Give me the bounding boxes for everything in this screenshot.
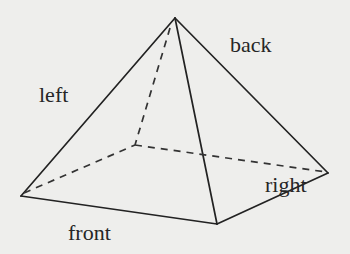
hidden-edge-back-base (135, 145, 326, 172)
edge-front-base (21, 196, 217, 224)
pyramid-drawing: left back right front (0, 0, 350, 254)
hidden-edge-apex-back-left (135, 28, 170, 145)
label-front: front (68, 220, 111, 245)
label-left: left (39, 82, 68, 107)
label-right: right (265, 172, 307, 197)
hidden-edge-left-base (24, 145, 135, 193)
edge-apex-front-left (21, 18, 175, 196)
edge-apex-front-right (175, 18, 217, 224)
label-back: back (230, 32, 272, 57)
pyramid-diagram: left back right front (0, 0, 350, 254)
